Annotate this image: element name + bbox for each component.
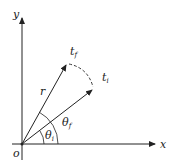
t-f-label: tf [70,46,77,59]
x-axis-label: x [160,139,166,150]
theta-f-label: θf [62,117,71,130]
rotation-arc [69,64,93,87]
polar-rotation-diagram: y x o r tf ti θi θf [0,0,175,167]
t-i-label: ti [102,72,109,85]
origin-point [21,143,24,146]
radius-label: r [40,86,45,97]
theta-i-label: θi [45,130,54,143]
y-axis-label: y [13,9,19,20]
origin-label: o [13,148,20,159]
diagram-canvas [0,0,175,167]
angle-arc-theta-i [40,131,44,144]
vector-t-f [22,65,66,144]
